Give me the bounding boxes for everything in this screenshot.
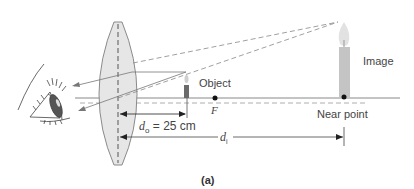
near-point-label: Near point — [317, 109, 368, 120]
magnifier-diagram — [0, 0, 414, 189]
focal-point-dot — [213, 96, 218, 101]
virtual-ray-extension-1 — [133, 22, 338, 63]
di-subscript: i — [226, 138, 228, 145]
do-value: = 25 cm — [153, 119, 196, 133]
image-candle — [339, 47, 350, 97]
near-point-dot — [342, 95, 347, 100]
object-flame — [185, 75, 189, 83]
object-distance-label: do = 25 cm — [139, 120, 196, 135]
object-candle — [184, 85, 189, 98]
image-label: Image — [363, 56, 394, 67]
object-label: Object — [199, 78, 231, 89]
ray-arrowhead-1 — [72, 82, 80, 87]
focal-point-label: F — [211, 105, 218, 116]
do-subscript: o — [145, 126, 149, 135]
image-distance-label: di — [220, 131, 228, 145]
di-arrow-right — [336, 134, 343, 140]
do-arrow-right — [179, 111, 186, 117]
eye-illustration — [18, 64, 70, 125]
panel-label: (a) — [201, 175, 214, 186]
ray-arrowhead-2 — [78, 106, 86, 111]
